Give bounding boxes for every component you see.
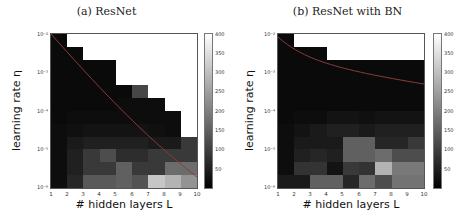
- x-tick: 10: [192, 191, 202, 197]
- y-tick: 10⁻⁵: [259, 146, 275, 152]
- y-tick: 10⁻⁵: [32, 146, 48, 152]
- colorbar-tick: 350: [444, 50, 454, 56]
- x-tick: 2: [289, 191, 299, 197]
- y-tick: 10⁻³: [32, 69, 48, 75]
- theory-curve: [278, 34, 424, 188]
- y-tick: 10⁻²: [32, 31, 48, 37]
- y-tick: 10⁻³: [259, 69, 275, 75]
- x-tick: 5: [110, 191, 120, 197]
- colorbar-tick: 350: [215, 50, 225, 56]
- x-tick: 1: [273, 191, 283, 197]
- x-tick: 8: [159, 191, 169, 197]
- heatmap-plot: [278, 34, 424, 188]
- panel-resnet: (a) ResNet learning rate η 10⁻² 10⁻³ 10⁻…: [0, 0, 237, 218]
- y-axis-label: learning rate η: [10, 51, 23, 171]
- y-tick: 10⁻²: [259, 31, 275, 37]
- colorbar-tick: 400: [444, 31, 454, 37]
- y-axis-label: learning rate η: [243, 51, 256, 171]
- colorbar-tick: 200: [444, 108, 454, 114]
- colorbar-tick: 50: [444, 166, 450, 172]
- x-tick: 9: [175, 191, 185, 197]
- x-tick: 8: [386, 191, 396, 197]
- x-tick: 3: [305, 191, 315, 197]
- x-tick: 6: [127, 191, 137, 197]
- colorbar-tick: 300: [215, 69, 225, 75]
- heatmap-plot: [51, 34, 197, 188]
- y-tick: 10⁻⁴: [32, 108, 48, 114]
- x-tick: 1: [46, 191, 56, 197]
- colorbar-tick: 150: [444, 127, 454, 133]
- x-tick: 9: [402, 191, 412, 197]
- x-tick: 10: [419, 191, 429, 197]
- x-axis-label: # hidden layers L: [278, 198, 424, 211]
- colorbar-tick: 250: [215, 88, 225, 94]
- colorbar-tick: 100: [444, 146, 454, 152]
- x-tick: 7: [143, 191, 153, 197]
- x-tick: 4: [321, 191, 331, 197]
- chart-title: (b) ResNet with BN: [229, 5, 466, 18]
- theory-curve: [51, 34, 197, 188]
- colorbar-tick: 300: [444, 69, 454, 75]
- colorbar-tick: 50: [215, 166, 221, 172]
- x-tick: 7: [370, 191, 380, 197]
- y-tick: 10⁻⁶: [259, 184, 275, 190]
- x-tick: 6: [354, 191, 364, 197]
- x-tick: 2: [62, 191, 72, 197]
- colorbar-tick: 250: [444, 88, 454, 94]
- colorbar: [434, 34, 441, 188]
- colorbar: [205, 34, 212, 188]
- x-axis-label: # hidden layers L: [51, 198, 197, 211]
- colorbar-tick: 100: [215, 146, 225, 152]
- x-tick: 5: [337, 191, 347, 197]
- chart-title: (a) ResNet: [0, 5, 225, 18]
- y-tick: 10⁻⁴: [259, 108, 275, 114]
- colorbar-tick: 200: [215, 108, 225, 114]
- panel-resnet-bn: (b) ResNet with BN learning rate η 10⁻² …: [227, 0, 464, 218]
- colorbar-tick: 150: [215, 127, 225, 133]
- x-tick: 3: [78, 191, 88, 197]
- colorbar-tick: 400: [215, 31, 225, 37]
- x-tick: 4: [94, 191, 104, 197]
- y-tick: 10⁻⁶: [32, 184, 48, 190]
